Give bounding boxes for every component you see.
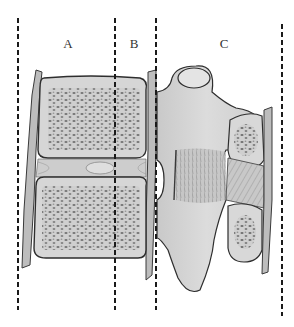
- supraspinous-ligament: [262, 107, 272, 274]
- spine-illustration: [0, 0, 294, 327]
- pedicle-cross-section: [178, 68, 210, 88]
- column-label-middle: B: [130, 36, 139, 52]
- facet-joint-capsule: [226, 158, 264, 208]
- nucleus-pulposus: [86, 162, 114, 174]
- lower-articular-process: [228, 204, 262, 262]
- posterior-longitudinal-ligament: [146, 70, 156, 280]
- intervertebral-disc: [36, 159, 146, 177]
- lower-vertebral-body: [34, 177, 146, 258]
- upper-vertebral-body: [38, 76, 146, 158]
- diagram-canvas: A B C: [0, 0, 294, 327]
- column-label-posterior: C: [220, 36, 229, 52]
- column-label-anterior: A: [63, 36, 72, 52]
